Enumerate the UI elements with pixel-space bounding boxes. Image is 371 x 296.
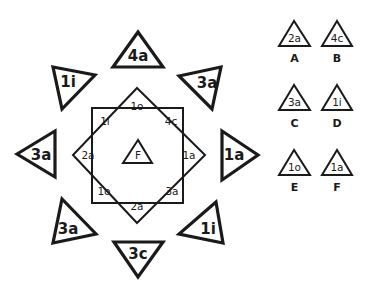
inner-label-bottom-right: 3a bbox=[165, 185, 178, 197]
option-c-symbol: 3a bbox=[288, 96, 301, 108]
option-e-letter: E bbox=[291, 181, 299, 194]
outer-label-top-left: 1i bbox=[60, 73, 76, 91]
option-f-letter: F bbox=[333, 181, 341, 194]
outer-triangle-right: 1a bbox=[222, 131, 258, 180]
outer-label-bottom-right: 1i bbox=[200, 220, 216, 238]
center-triangle: F bbox=[123, 140, 152, 163]
outer-label-top-right: 3a bbox=[197, 74, 218, 92]
center-label: F bbox=[135, 149, 141, 161]
inner-label-bottom: 2a bbox=[130, 200, 143, 212]
option-f-symbol: 1a bbox=[330, 161, 343, 173]
outer-triangle-top-right: 3a bbox=[179, 67, 221, 109]
option-a[interactable]: 2a A bbox=[279, 21, 310, 65]
option-e[interactable]: 1o E bbox=[279, 150, 310, 194]
answer-options: 2a A 4c B 3a C 1i D 1o E 1a F bbox=[279, 21, 352, 194]
puzzle-diagram: 4a 3a 1a 1i 3c 3a 3a 1i bbox=[0, 0, 371, 296]
outer-label-bottom-left: 3a bbox=[58, 220, 79, 238]
outer-triangle-top: 4a bbox=[113, 32, 163, 67]
option-a-symbol: 2a bbox=[288, 32, 301, 44]
option-f[interactable]: 1a F bbox=[322, 150, 352, 194]
option-b-letter: B bbox=[333, 52, 341, 65]
outer-triangle-bottom-left: 3a bbox=[53, 199, 96, 243]
inner-label-top: 1o bbox=[130, 100, 143, 112]
option-a-letter: A bbox=[290, 52, 299, 65]
inner-label-right: 1a bbox=[182, 149, 195, 161]
outer-label-bottom: 3c bbox=[128, 245, 147, 263]
inner-label-bottom-left: 1o bbox=[97, 185, 110, 197]
option-e-symbol: 1o bbox=[288, 161, 301, 173]
inner-label-top-left: 1i bbox=[100, 115, 110, 127]
option-c[interactable]: 3a C bbox=[279, 85, 310, 130]
outer-triangle-bottom: 3c bbox=[114, 242, 163, 277]
inner-label-left: 2a bbox=[81, 149, 94, 161]
option-d-symbol: 1i bbox=[332, 96, 342, 108]
option-c-letter: C bbox=[290, 117, 298, 130]
outer-triangle-bottom-right: 1i bbox=[179, 202, 223, 243]
option-d[interactable]: 1i D bbox=[322, 85, 352, 130]
option-d-letter: D bbox=[332, 117, 341, 130]
option-b[interactable]: 4c B bbox=[322, 21, 352, 65]
inner-label-top-right: 4c bbox=[165, 115, 178, 127]
outer-triangle-left: 3a bbox=[17, 131, 55, 177]
outer-label-left: 3a bbox=[31, 146, 52, 164]
outer-triangle-top-left: 1i bbox=[53, 67, 95, 109]
outer-label-right: 1a bbox=[224, 146, 245, 164]
option-b-symbol: 4c bbox=[331, 32, 344, 44]
outer-label-top: 4a bbox=[128, 47, 149, 65]
